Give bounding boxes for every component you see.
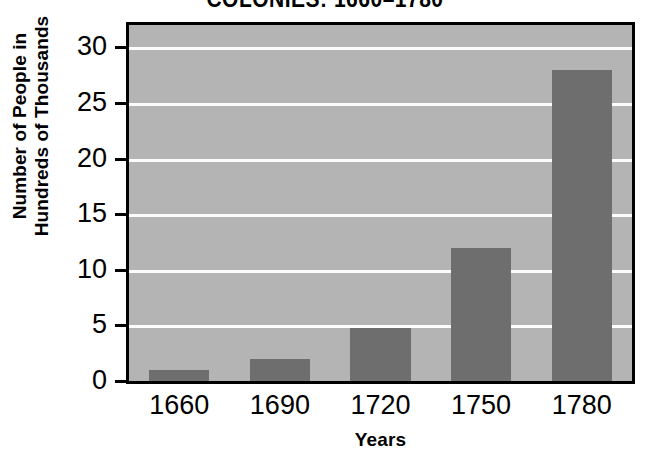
- bar-1660: [149, 370, 209, 381]
- x-tick-label-1780: 1780: [531, 392, 632, 419]
- bar-chart-figure: COLONIES: 1660–1780 Number of People in …: [0, 0, 653, 460]
- y-tick-mark-5: [115, 324, 126, 327]
- chart-title: COLONIES: 1660–1780: [125, 0, 525, 11]
- y-tick-label-30: 30: [21, 33, 107, 60]
- y-tick-label-0: 0: [21, 367, 107, 394]
- x-tick-label-1750: 1750: [431, 392, 532, 419]
- y-tick-label-10: 10: [21, 256, 107, 283]
- y-tick-label-20: 20: [21, 145, 107, 172]
- bar-1750: [451, 248, 511, 382]
- bar-1690: [250, 359, 310, 381]
- y-tick-mark-15: [115, 213, 126, 216]
- x-tick-label-1660: 1660: [129, 392, 230, 419]
- gridline-30: [129, 47, 632, 50]
- y-tick-label-25: 25: [21, 89, 107, 116]
- y-tick-label-15: 15: [21, 200, 107, 227]
- y-tick-label-5: 5: [21, 311, 107, 338]
- y-tick-mark-10: [115, 269, 126, 272]
- x-tick-label-1720: 1720: [330, 392, 431, 419]
- x-axis-title: Years: [126, 429, 635, 451]
- x-tick-label-1690: 1690: [230, 392, 331, 419]
- bar-1720: [350, 328, 410, 381]
- y-tick-mark-0: [115, 380, 126, 383]
- plot-area: [126, 22, 635, 384]
- y-tick-mark-20: [115, 158, 126, 161]
- y-tick-mark-30: [115, 46, 126, 49]
- y-tick-mark-25: [115, 102, 126, 105]
- bar-1780: [552, 70, 612, 382]
- plot-inner: [129, 25, 632, 381]
